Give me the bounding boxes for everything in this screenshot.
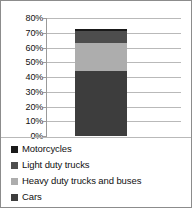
y-axis-tickmark <box>43 77 47 78</box>
legend-swatch-icon <box>11 146 18 153</box>
plot-wrapper: 80%70%60%50%40%30%20%10%0% <box>1 1 192 141</box>
chart-legend: MotorcyclesLight duty trucksHeavy duty t… <box>1 137 192 208</box>
y-axis-tickmark <box>43 62 47 63</box>
legend-swatch-icon <box>11 178 18 185</box>
y-axis-tick-label: 40% <box>3 73 43 82</box>
legend-item[interactable]: Cars <box>1 189 192 205</box>
bar-segment[interactable] <box>75 71 127 136</box>
legend-swatch-icon <box>11 194 18 201</box>
y-axis-tick-labels: 80%70%60%50%40%30%20%10%0% <box>3 13 43 136</box>
legend-item-label: Motorcycles <box>22 144 72 154</box>
legend-item-label: Light duty trucks <box>22 160 89 170</box>
legend-item[interactable]: Light duty trucks <box>1 157 192 173</box>
legend-swatch-icon <box>11 162 18 169</box>
y-axis-tick-label: 30% <box>3 87 43 96</box>
legend-item[interactable]: Heavy duty trucks and buses <box>1 173 192 189</box>
y-axis-tickmark <box>43 121 47 122</box>
y-axis-tick-label: 70% <box>3 28 43 37</box>
y-axis-tick-label: 80% <box>3 14 43 23</box>
chart-container: 80%70%60%50%40%30%20%10%0% MotorcyclesLi… <box>0 0 192 208</box>
bar-segment[interactable] <box>75 31 127 43</box>
y-axis-tickmark <box>43 48 47 49</box>
y-axis-tick-label: 20% <box>3 102 43 111</box>
y-axis-tick-label: 50% <box>3 58 43 67</box>
gridline <box>47 18 181 19</box>
y-axis-tickmark <box>43 33 47 34</box>
stacked-bar[interactable] <box>75 29 127 136</box>
legend-item-label: Heavy duty trucks and buses <box>22 176 141 186</box>
legend-item-label: Cars <box>22 192 42 202</box>
y-axis-tickmark <box>43 18 47 19</box>
y-axis-tick-label: 10% <box>3 117 43 126</box>
legend-item[interactable]: Motorcycles <box>1 141 192 157</box>
y-axis-tickmark <box>43 92 47 93</box>
y-axis-tick-label: 60% <box>3 43 43 52</box>
bar-segment[interactable] <box>75 43 127 71</box>
plot-area <box>46 18 181 136</box>
y-axis-tickmark <box>43 107 47 108</box>
